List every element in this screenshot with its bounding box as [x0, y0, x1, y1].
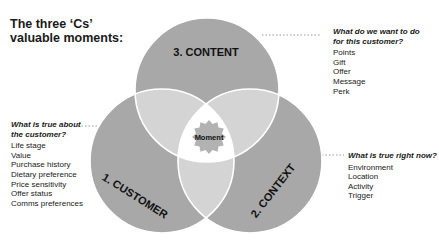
customer-annotation: What is true about the customer? Life st…	[11, 120, 91, 208]
content-item: Offer	[333, 67, 439, 77]
content-item: Perk	[333, 87, 439, 97]
context-item: Trigger	[348, 191, 439, 201]
context-item: Activity	[348, 182, 439, 192]
content-question: What do we want to do for this customer?	[333, 27, 439, 46]
customer-item: Dietary preference	[11, 170, 91, 180]
content-question-line-1: What do we want to do	[333, 27, 439, 37]
customer-question-line-1: What is true about	[11, 120, 91, 130]
content-circle-label: 3. CONTENT	[173, 46, 239, 58]
customer-question: What is true about the customer?	[11, 120, 91, 139]
content-item: Gift	[333, 58, 439, 68]
customer-item: Life stage	[11, 141, 91, 151]
customer-item: Offer status	[11, 189, 91, 199]
customer-item: Price sensitivity	[11, 180, 91, 190]
content-annotation: What do we want to do for this customer?…	[333, 27, 439, 96]
customer-item: Purchase history	[11, 160, 91, 170]
content-item: Points	[333, 48, 439, 58]
customer-item: Comms preferences	[11, 199, 91, 209]
content-question-line-2: for this customer?	[333, 37, 439, 47]
moment-label: Moment	[195, 133, 224, 142]
context-item: Environment	[348, 163, 439, 173]
customer-item: Value	[11, 151, 91, 161]
content-item: Message	[333, 77, 439, 87]
context-item: Location	[348, 172, 439, 182]
customer-question-line-2: the customer?	[11, 130, 91, 140]
context-question-line-1: What is true right now?	[348, 151, 439, 161]
context-annotation: What is true right now? Environment Loca…	[348, 151, 439, 201]
context-question: What is true right now?	[348, 151, 439, 161]
